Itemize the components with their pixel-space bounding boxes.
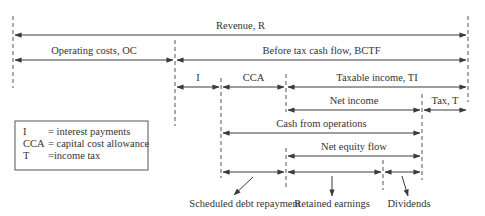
- callout-retained-earnings-label: Retained earnings: [294, 198, 370, 209]
- legend-entry: CCA= capital cost allowance: [23, 138, 150, 149]
- legend-abbr: T: [23, 150, 30, 161]
- span-taxable-income-label: Taxable income, TI: [336, 72, 418, 83]
- span-cca-label: CCA: [243, 72, 265, 83]
- span-taxable-income: Taxable income, TI: [288, 72, 466, 87]
- span-tax: Tax, T: [424, 95, 466, 110]
- span-tax-label: Tax, T: [431, 95, 459, 106]
- callout-arrows: Scheduled debt repaymentRetained earning…: [189, 176, 430, 209]
- span-net-income: Net income: [288, 95, 420, 110]
- span-revenue: Revenue, R: [15, 20, 466, 35]
- legend-abbr: I: [23, 126, 27, 137]
- legend-definition: =income tax: [48, 150, 101, 161]
- legend-definition: = capital cost allowance: [48, 138, 150, 149]
- legend: I= interest paymentsCCA= capital cost al…: [15, 121, 150, 170]
- legend-definition: = interest payments: [48, 126, 130, 137]
- span-bctf-label: Before tax cash flow, BCTF: [262, 45, 380, 56]
- callout-retained-earnings: Retained earnings: [294, 176, 370, 209]
- callout-dividends: Dividends: [387, 176, 430, 209]
- span-bctf: Before tax cash flow, BCTF: [177, 45, 466, 60]
- span-operating-costs: Operating costs, OC: [15, 45, 173, 60]
- callout-dividends-label: Dividends: [387, 198, 430, 209]
- span-operating-costs-label: Operating costs, OC: [51, 45, 136, 56]
- span-cash-from-operations-label: Cash from operations: [276, 118, 366, 129]
- span-net-equity-flow-label: Net equity flow: [321, 141, 387, 152]
- span-cash-from-operations: Cash from operations: [223, 118, 420, 133]
- callout-scheduled-debt-repayment-label: Scheduled debt repayment: [189, 198, 300, 209]
- callout-scheduled-debt-repayment: Scheduled debt repayment: [189, 177, 300, 209]
- cash-flow-diagram: Revenue, ROperating costs, OCBefore tax …: [0, 0, 485, 216]
- span-net-equity-flow: Net equity flow: [288, 141, 420, 156]
- pointer-arrow-icon: [402, 176, 408, 196]
- span-cca: CCA: [223, 72, 284, 87]
- span-interest: I: [177, 72, 219, 87]
- span-revenue-label: Revenue, R: [216, 20, 265, 31]
- span-interest-label: I: [196, 72, 200, 83]
- span-net-income-label: Net income: [330, 95, 379, 106]
- pointer-arrow-icon: [234, 177, 253, 195]
- legend-abbr: CCA: [23, 138, 45, 149]
